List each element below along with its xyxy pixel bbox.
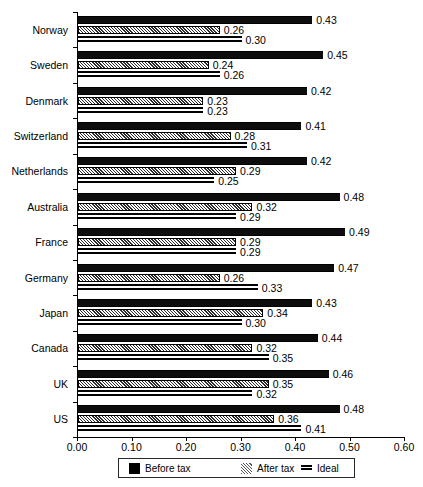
category-axis-tick <box>73 118 77 119</box>
bar-value-label: 0.45 <box>326 50 348 60</box>
bar-group: 0.440.320.35 <box>78 334 405 362</box>
bar-value-label: 0.43 <box>315 298 337 308</box>
bar-value-label: 0.30 <box>245 35 267 45</box>
bar-after-tax <box>78 309 263 317</box>
value-axis-tick-label: 0.20 <box>166 441 206 453</box>
bar-value-label: 0.49 <box>348 227 370 237</box>
bar-value-label: 0.48 <box>343 192 365 202</box>
bar-ideal <box>78 36 242 44</box>
bar-value-label: 0.32 <box>255 389 277 399</box>
bar-value-label: 0.34 <box>266 308 288 318</box>
category-axis-tick <box>73 47 77 48</box>
bar-before-tax <box>78 264 334 272</box>
category-axis-tick <box>73 366 77 367</box>
legend-item-ideal[interactable]: Ideal <box>301 459 339 477</box>
category-label-switzerland: Switzerland <box>0 130 68 142</box>
legend-label: Ideal <box>317 463 339 474</box>
bar-group: 0.410.280.31 <box>78 122 405 150</box>
value-axis-tick-labels: 0.000.100.200.300.400.500.60 <box>77 441 404 457</box>
bar-value-label: 0.41 <box>304 121 326 131</box>
bar-value-label: 0.25 <box>217 176 239 186</box>
bar-before-tax <box>78 122 301 130</box>
category-label-us: US <box>0 413 68 425</box>
bar-value-label: 0.42 <box>310 156 332 166</box>
legend-swatch-icon <box>129 463 140 474</box>
bar-before-tax <box>78 370 329 378</box>
bar-ideal <box>78 107 203 115</box>
category-axis-tick <box>73 260 77 261</box>
bar-value-label: 0.36 <box>277 414 299 424</box>
bar-value-label: 0.41 <box>304 424 326 434</box>
bar-after-tax <box>78 415 274 423</box>
bar-ideal <box>78 213 236 221</box>
category-axis-tick <box>73 437 77 438</box>
bar-ideal <box>78 71 220 79</box>
plot-area: 0.430.260.300.450.240.260.420.230.230.41… <box>77 12 404 437</box>
category-axis-tick <box>73 295 77 296</box>
bar-group: 0.420.230.23 <box>78 87 405 115</box>
bar-before-tax <box>78 334 318 342</box>
value-axis-tick-label: 0.00 <box>57 441 97 453</box>
legend-item-after-tax[interactable]: After tax <box>241 459 294 477</box>
category-axis-tick <box>73 402 77 403</box>
bar-ideal <box>78 354 269 362</box>
bar-before-tax <box>78 16 312 24</box>
bar-ideal <box>78 248 236 256</box>
bar-after-tax <box>78 380 269 388</box>
bar-before-tax <box>78 299 312 307</box>
bar-value-label: 0.23 <box>206 106 228 116</box>
bar-value-label: 0.43 <box>315 15 337 25</box>
category-label-australia: Australia <box>0 201 68 213</box>
category-axis-tick <box>73 154 77 155</box>
bar-ideal <box>78 319 242 327</box>
bar-after-tax <box>78 274 220 282</box>
category-label-germany: Germany <box>0 272 68 284</box>
value-axis-tick-label: 0.10 <box>112 441 152 453</box>
bar-group: 0.430.340.30 <box>78 299 405 327</box>
category-label-netherlands: Netherlands <box>0 165 68 177</box>
value-axis-tick-label: 0.40 <box>275 441 315 453</box>
category-axis-tick <box>73 331 77 332</box>
bar-after-tax <box>78 203 252 211</box>
legend-item-before-tax[interactable]: Before tax <box>129 459 191 477</box>
category-label-denmark: Denmark <box>0 95 68 107</box>
bar-value-label: 0.26 <box>223 273 245 283</box>
category-label-sweden: Sweden <box>0 59 68 71</box>
bar-after-tax <box>78 132 231 140</box>
bar-before-tax <box>78 87 307 95</box>
bar-value-label: 0.26 <box>223 25 245 35</box>
bar-ideal <box>78 142 247 150</box>
bar-ideal <box>78 284 258 292</box>
bar-ideal <box>78 425 301 433</box>
bar-group: 0.480.320.29 <box>78 193 405 221</box>
value-axis-tick-label: 0.30 <box>221 441 261 453</box>
chart-legend: Before taxAfter taxIdeal <box>118 458 355 478</box>
bar-value-label: 0.29 <box>239 212 261 222</box>
bar-group: 0.450.240.26 <box>78 51 405 79</box>
category-label-norway: Norway <box>0 24 68 36</box>
category-axis-tick <box>73 12 77 13</box>
bar-value-label: 0.29 <box>239 247 261 257</box>
value-axis-tick-label: 0.60 <box>384 441 423 453</box>
bar-before-tax <box>78 157 307 165</box>
category-axis-tick <box>73 225 77 226</box>
bar-value-label: 0.48 <box>343 404 365 414</box>
bar-after-tax <box>78 167 236 175</box>
bar-after-tax <box>78 238 236 246</box>
bar-before-tax <box>78 193 340 201</box>
bar-ideal <box>78 177 214 185</box>
bar-after-tax <box>78 61 209 69</box>
bar-ideal <box>78 390 252 398</box>
bar-value-label: 0.47 <box>337 263 359 273</box>
bar-group: 0.470.260.33 <box>78 264 405 292</box>
legend-swatch-icon <box>241 463 252 474</box>
category-axis-tick <box>73 189 77 190</box>
bar-value-label: 0.44 <box>321 333 343 343</box>
bar-group: 0.480.360.41 <box>78 405 405 433</box>
bar-before-tax <box>78 405 340 413</box>
bar-value-label: 0.30 <box>245 318 267 328</box>
bar-after-tax <box>78 97 203 105</box>
legend-swatch-icon <box>301 463 312 474</box>
bar-chart: NorwaySwedenDenmarkSwitzerlandNetherland… <box>0 0 423 487</box>
category-axis-tick <box>73 83 77 84</box>
